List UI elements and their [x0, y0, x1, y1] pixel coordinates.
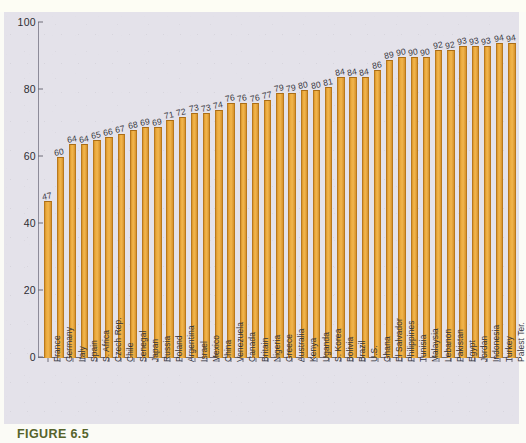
bar: 92 [447, 50, 454, 358]
bar-value-label: 71 [163, 109, 174, 121]
x-label-slot: Jordan [469, 362, 481, 424]
bar: 60 [57, 157, 64, 358]
x-label-slot: Israel [188, 362, 200, 424]
x-axis-category-label: Israel [199, 341, 209, 362]
bar: 64 [69, 144, 76, 358]
bar-value-label: 94 [505, 32, 516, 44]
bar-slot: 94 [506, 22, 518, 358]
x-axis-category-label: Chile [125, 342, 135, 362]
bar-value-label: 76 [249, 93, 260, 105]
bar-value-label: 89 [383, 49, 394, 61]
bar-value-label: 67 [115, 123, 126, 135]
bar-slot: 69 [140, 22, 152, 358]
bar-slot: 76 [237, 22, 249, 358]
x-label-slot: Chile [115, 362, 127, 424]
bar-value-label: 77 [261, 89, 272, 101]
x-axis-category-label: Jordan [479, 336, 489, 362]
x-label-slot: Turkey [494, 362, 506, 424]
bar-value-label: 93 [481, 36, 492, 48]
figure-caption: FIGURE 6.5 [17, 427, 89, 441]
bar-slot: 76 [249, 22, 261, 358]
bar-slot: 80 [310, 22, 322, 358]
bar-value-label: 90 [420, 46, 431, 58]
x-axis-category-label: Japan [150, 339, 160, 362]
bar-series: 4760646465666768696971727373747676767779… [38, 22, 518, 358]
y-tick-label: 60 [24, 150, 36, 162]
bar: 92 [435, 50, 442, 358]
figure-page: 020406080100 476064646566676869697172737… [0, 0, 526, 443]
bar-value-label: 90 [395, 46, 406, 58]
x-label-slot: Kenya [298, 362, 310, 424]
x-label-slot: Japan [140, 362, 152, 424]
bar-slot: 66 [103, 22, 115, 358]
x-axis-category-label: Poland [174, 335, 184, 362]
bar-value-label: 93 [456, 36, 467, 48]
x-label-slot: Czech Rep. [103, 362, 115, 424]
bar: 94 [496, 43, 503, 358]
bar: 73 [203, 113, 210, 358]
x-axis-category-label: Venezuela [235, 322, 245, 362]
x-label-slot: Indonesia [481, 362, 493, 424]
bar: 84 [349, 77, 356, 358]
x-axis-category-label: Indonesia [491, 325, 501, 362]
bar: 69 [154, 127, 161, 358]
bar: 65 [93, 140, 100, 358]
bar-slot: 71 [164, 22, 176, 358]
bar-slot: 64 [66, 22, 78, 358]
bar: 66 [105, 137, 112, 358]
x-label-slot: Tunisia [408, 362, 420, 424]
bar-slot: 60 [54, 22, 66, 358]
x-label-slot: El Salvador [384, 362, 396, 424]
bar: 94 [508, 43, 515, 358]
bar-slot: 72 [176, 22, 188, 358]
bar-value-label: 65 [90, 130, 101, 142]
x-label-slot: Germany [54, 362, 66, 424]
bar: 73 [191, 113, 198, 358]
x-label-slot: Nigeria [262, 362, 274, 424]
bar-value-label: 76 [237, 93, 248, 105]
bar-slot: 92 [433, 22, 445, 358]
x-axis-category-label: U.S. [369, 345, 379, 362]
x-axis-category-label: Philippines [406, 320, 416, 362]
x-axis-category-label: Mexico [211, 335, 221, 362]
x-label-slot: Britain [249, 362, 261, 424]
bar: 68 [130, 130, 137, 358]
x-label-slot: Ghana [371, 362, 383, 424]
x-axis-labels: FranceGermanyItalySpainS. AfricaCzech Re… [38, 362, 518, 424]
bar: 72 [179, 117, 186, 358]
bar: 84 [362, 77, 369, 358]
x-axis-category-label: Spain [89, 340, 99, 362]
bar-value-label: 90 [407, 46, 418, 58]
bar: 86 [374, 70, 381, 358]
bar-slot: 90 [420, 22, 432, 358]
x-axis-category-label: Brazil [357, 340, 367, 362]
x-label-slot: Australia [286, 362, 298, 424]
bar-value-label: 64 [78, 133, 89, 145]
bar: 80 [313, 90, 320, 358]
bar: 64 [81, 144, 88, 358]
bar-slot: 69 [152, 22, 164, 358]
bar-slot: 94 [494, 22, 506, 358]
x-label-slot: S. Korea [323, 362, 335, 424]
bar-value-label: 81 [322, 76, 333, 88]
x-label-slot: Brazil [347, 362, 359, 424]
x-axis-category-label: Tunisia [418, 335, 428, 362]
bar-slot: 65 [91, 22, 103, 358]
bar: 89 [386, 60, 393, 358]
bar-slot: 79 [286, 22, 298, 358]
bar: 90 [411, 57, 418, 359]
bar-slot: 81 [323, 22, 335, 358]
bar: 93 [472, 46, 479, 358]
x-axis-category-label: Greece [284, 334, 294, 362]
bar-value-label: 92 [444, 39, 455, 51]
bar-slot: 90 [396, 22, 408, 358]
x-label-slot: Palest Ter. [506, 362, 518, 424]
x-label-slot: Greece [274, 362, 286, 424]
bar: 76 [227, 103, 234, 358]
bar-value-label: 74 [212, 99, 223, 111]
page-top-margin [0, 0, 526, 12]
x-label-slot: Poland [164, 362, 176, 424]
y-tick-label: 40 [24, 217, 36, 229]
x-label-slot: Uganda [310, 362, 322, 424]
x-axis-category-label: Lebanon [443, 329, 453, 362]
